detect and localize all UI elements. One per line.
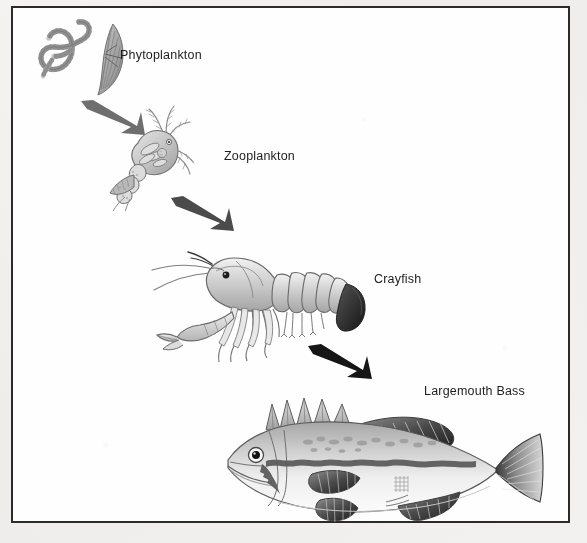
largemouth-bass-icon (208, 382, 568, 532)
phytoplankton-icon (22, 14, 132, 106)
label-zooplankton: Zooplankton (224, 149, 295, 163)
diagram-stage: Phytoplankton (0, 0, 587, 543)
arrow-crayfish-to-bass (306, 343, 378, 385)
label-crayfish: Crayfish (374, 272, 421, 286)
label-phytoplankton: Phytoplankton (120, 48, 202, 62)
label-largemouth-bass: Largemouth Bass (424, 384, 525, 398)
